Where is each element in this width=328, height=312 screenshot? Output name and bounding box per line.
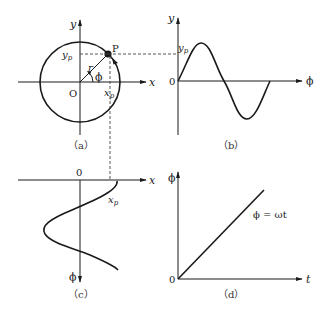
radius-label: r [88,62,94,73]
cosine-curve [44,181,118,270]
motion-arrow-icon [112,58,118,65]
origin-label-a: O [69,88,77,99]
point-label: P [112,43,119,54]
phi-axis-label-c: ϕ [69,271,77,284]
angle-label: ϕ [95,71,103,84]
xp-label-a: xp [104,87,115,100]
t-axis-label-d: t [306,273,311,286]
circular-motion-diagram: y x O P r ϕ yp xp （a） y ϕ 0 yp （b） 0 x ϕ… [0,0,328,312]
panel-b: y ϕ 0 yp （b） [167,12,314,151]
y-axis-label-a: y [69,18,77,31]
x-axis-label-c: x [149,174,156,187]
caption-a: （a） [68,140,94,151]
phi-axis-label-d: ϕ [168,172,176,185]
y-axis-label-b: y [167,12,175,25]
xp-label-c: xp [108,194,119,207]
yp-label-a: yp [61,49,73,62]
caption-b: （b） [218,140,244,151]
phi-axis-label-b: ϕ [306,75,314,88]
origin-label-b: 0 [169,76,175,87]
yp-label-b: yp [177,42,189,55]
x-axis-label-a: x [149,76,156,89]
linear-line [178,190,264,279]
origin-label-c: 0 [76,167,82,178]
panel-a: y x O P r ϕ yp xp （a） [18,18,178,180]
panel-d: ϕ t 0 ϕ = ωt （d） [168,172,311,300]
panel-c: 0 x ϕ xp （c） [18,167,156,300]
radius-line [80,54,108,82]
origin-label-d: 0 [169,274,175,285]
equation-label: ϕ = ωt [253,209,287,220]
caption-d: （d） [218,289,244,300]
caption-c: （c） [68,289,94,300]
